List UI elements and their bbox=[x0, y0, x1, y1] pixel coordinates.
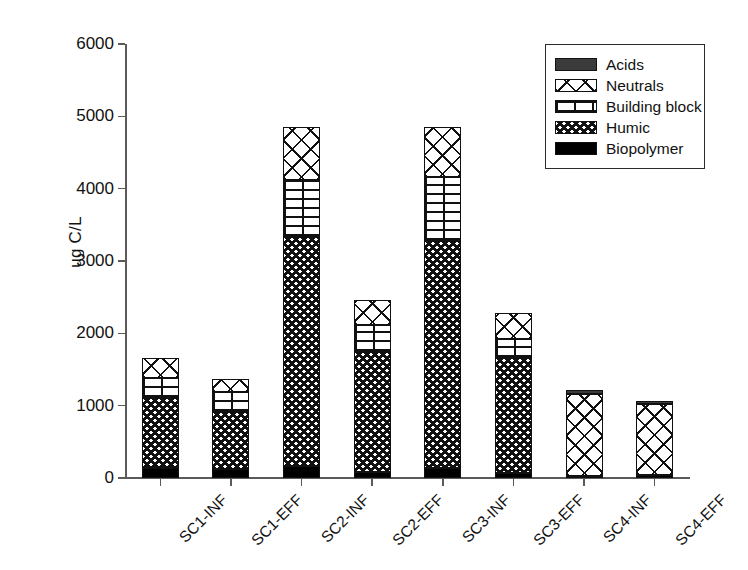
bar-segment-acids[interactable] bbox=[566, 390, 603, 393]
x-tick-mark bbox=[371, 478, 372, 486]
bar-segment-biopolymer[interactable] bbox=[636, 475, 673, 478]
bar-sc3-inf[interactable] bbox=[424, 127, 461, 478]
biopolymer-swatch bbox=[555, 142, 597, 155]
y-tick-label: 0 bbox=[105, 468, 114, 488]
bar-segment-neutrals[interactable] bbox=[566, 394, 603, 476]
bar-segment-biopolymer[interactable] bbox=[495, 473, 532, 478]
bar-segment-neutrals[interactable] bbox=[283, 127, 320, 180]
legend-item-biopolymer[interactable]: Biopolymer bbox=[555, 138, 696, 159]
bar-segment-neutrals[interactable] bbox=[142, 358, 179, 378]
legend-label: Neutrals bbox=[606, 77, 664, 95]
bar-segment-humic[interactable] bbox=[354, 352, 391, 472]
bar-segment-humic[interactable] bbox=[212, 412, 249, 470]
acids-swatch bbox=[555, 58, 597, 71]
bar-sc2-eff[interactable] bbox=[354, 300, 391, 478]
legend-label: Acids bbox=[606, 56, 644, 74]
bar-segment-building-block[interactable] bbox=[354, 325, 391, 352]
bar-segment-biopolymer[interactable] bbox=[283, 466, 320, 478]
bar-segment-building-block[interactable] bbox=[283, 180, 320, 237]
bar-segment-humic[interactable] bbox=[495, 358, 532, 473]
x-tick-label-sc2-inf: SC2-INF bbox=[317, 491, 372, 546]
bar-segment-neutrals[interactable] bbox=[636, 404, 673, 475]
building-block-swatch bbox=[555, 100, 597, 113]
x-tick-label-sc1-inf: SC1-INF bbox=[176, 491, 231, 546]
bar-sc1-eff[interactable] bbox=[212, 379, 249, 478]
bar-segment-neutrals[interactable] bbox=[495, 313, 532, 339]
bar-segment-building-block[interactable] bbox=[495, 339, 532, 358]
bar-segment-building-block[interactable] bbox=[212, 392, 249, 412]
bar-sc4-eff[interactable] bbox=[636, 401, 673, 478]
x-tick-mark bbox=[583, 478, 584, 486]
y-tick-label: 6000 bbox=[76, 34, 114, 54]
x-tick-mark bbox=[513, 478, 514, 486]
bar-segment-biopolymer[interactable] bbox=[212, 469, 249, 478]
legend-item-acids[interactable]: Acids bbox=[555, 54, 696, 75]
legend-item-neutrals[interactable]: Neutrals bbox=[555, 75, 696, 96]
bar-segment-neutrals[interactable] bbox=[424, 127, 461, 177]
x-tick-label-sc4-eff: SC4-EFF bbox=[672, 491, 730, 549]
y-tick-label: 2000 bbox=[76, 323, 114, 343]
legend-item-building-block[interactable]: Building block bbox=[555, 96, 696, 117]
x-tick-label-sc3-inf: SC3-INF bbox=[458, 491, 513, 546]
x-tick-label-sc1-eff: SC1-EFF bbox=[248, 491, 306, 549]
y-tick-mark bbox=[118, 405, 125, 406]
bar-segment-humic[interactable] bbox=[283, 237, 320, 466]
y-tick-label: 1000 bbox=[76, 396, 114, 416]
x-tick-mark bbox=[160, 478, 161, 486]
chart-figure: ug C/L 0100020003000400050006000 SC1-INF… bbox=[0, 0, 748, 570]
x-tick-mark bbox=[230, 478, 231, 486]
y-tick-label: 4000 bbox=[76, 179, 114, 199]
bar-segment-building-block[interactable] bbox=[424, 177, 461, 241]
bar-sc2-inf[interactable] bbox=[283, 127, 320, 478]
bar-segment-biopolymer[interactable] bbox=[354, 472, 391, 478]
x-tick-mark bbox=[301, 478, 302, 486]
y-axis-line bbox=[125, 44, 127, 478]
y-tick-mark bbox=[118, 477, 125, 478]
bar-segment-biopolymer[interactable] bbox=[142, 468, 179, 478]
y-tick-mark bbox=[118, 116, 125, 117]
y-tick-label: 5000 bbox=[76, 106, 114, 126]
bar-segment-building-block[interactable] bbox=[142, 378, 179, 398]
legend-label: Building block bbox=[606, 98, 702, 116]
bar-segment-humic[interactable] bbox=[424, 241, 461, 468]
y-tick-mark bbox=[118, 43, 125, 44]
y-tick-mark bbox=[118, 260, 125, 261]
neutrals-swatch bbox=[555, 79, 597, 92]
y-tick-label: 3000 bbox=[76, 251, 114, 271]
y-tick-mark bbox=[118, 188, 125, 189]
x-tick-mark bbox=[654, 478, 655, 486]
y-tick-mark bbox=[118, 333, 125, 334]
humic-swatch bbox=[555, 121, 597, 134]
legend-label: Biopolymer bbox=[606, 140, 684, 158]
legend-item-humic[interactable]: Humic bbox=[555, 117, 696, 138]
bar-segment-humic[interactable] bbox=[142, 398, 179, 468]
chart-legend: AcidsNeutralsBuilding blockHumicBiopolym… bbox=[545, 44, 705, 169]
bar-segment-biopolymer[interactable] bbox=[424, 468, 461, 478]
bar-sc3-eff[interactable] bbox=[495, 313, 532, 478]
bar-sc4-inf[interactable] bbox=[566, 390, 603, 478]
legend-label: Humic bbox=[606, 119, 650, 137]
bar-segment-biopolymer[interactable] bbox=[566, 476, 603, 478]
bar-segment-neutrals[interactable] bbox=[212, 379, 249, 392]
x-tick-label-sc3-eff: SC3-EFF bbox=[530, 491, 588, 549]
x-tick-label-sc2-eff: SC2-EFF bbox=[389, 491, 447, 549]
bar-sc1-inf[interactable] bbox=[142, 358, 179, 478]
x-tick-label-sc4-inf: SC4-INF bbox=[600, 491, 655, 546]
bar-segment-acids[interactable] bbox=[636, 401, 673, 404]
x-tick-mark bbox=[442, 478, 443, 486]
bar-segment-neutrals[interactable] bbox=[354, 300, 391, 325]
x-axis-line bbox=[125, 477, 690, 479]
